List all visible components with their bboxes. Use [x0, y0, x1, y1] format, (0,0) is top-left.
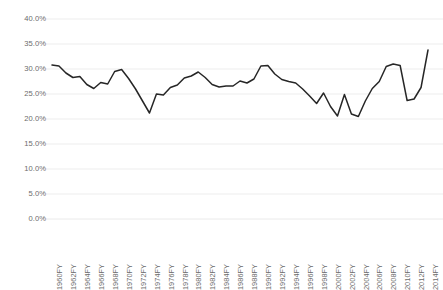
x-axis-tick-label: 1970FY: [125, 264, 134, 290]
x-axis-tick-label: 1990FY: [264, 264, 273, 290]
x-axis: 1960FY1962FY1964FY1966FY1968FY1970FY1972…: [0, 222, 443, 267]
y-axis-tick-label: 20.0%: [2, 114, 46, 123]
y-axis-tick-label: 40.0%: [2, 14, 46, 23]
x-axis-tick-label: 1964FY: [83, 264, 92, 290]
x-axis-tick-label: 1994FY: [292, 264, 301, 290]
x-axis-tick-label: 1976FY: [167, 264, 176, 290]
x-axis-tick-label: 1984FY: [222, 264, 231, 290]
gridlines: [46, 19, 443, 219]
y-axis-tick-label: 25.0%: [2, 89, 46, 98]
x-axis-tick-label: 2008FY: [389, 264, 398, 290]
y-axis-tick-label: 10.0%: [2, 164, 46, 173]
x-axis-tick-label: 2002FY: [348, 264, 357, 290]
y-axis-tick-label: 30.0%: [2, 64, 46, 73]
x-axis-tick-label: 1966FY: [97, 264, 106, 290]
x-axis-tick-label: 1992FY: [278, 264, 287, 290]
x-axis-tick-label: 2014FY: [431, 264, 440, 290]
x-axis-tick-label: 2010FY: [403, 264, 412, 290]
x-axis-tick-label: 1982FY: [208, 264, 217, 290]
x-axis-tick-label: 2000FY: [334, 264, 343, 290]
x-axis-tick-label: 1978FY: [181, 264, 190, 290]
y-axis-tick-label: 35.0%: [2, 39, 46, 48]
x-axis-tick-label: 1996FY: [306, 264, 315, 290]
x-axis-tick-label: 2006FY: [375, 264, 384, 290]
x-axis-tick-label: 1986FY: [236, 264, 245, 290]
y-axis-tick-label: 15.0%: [2, 139, 46, 148]
x-axis-tick-label: 1960FY: [55, 264, 64, 290]
x-axis-tick-label: 2012FY: [417, 264, 426, 290]
y-axis-tick-label: 5.0%: [2, 189, 46, 198]
x-axis-tick-label: 1988FY: [250, 264, 259, 290]
x-axis-tick-label: 1962FY: [69, 264, 78, 290]
y-axis: 0.0%5.0%10.0%15.0%20.0%25.0%30.0%35.0%40…: [0, 0, 46, 230]
x-axis-tick-label: 1972FY: [139, 264, 148, 290]
x-axis-tick-label: 1974FY: [153, 264, 162, 290]
x-axis-tick-label: 1968FY: [111, 264, 120, 290]
data-series-line: [52, 50, 428, 117]
x-axis-tick-label: 2004FY: [362, 264, 371, 290]
x-axis-tick-label: 1980FY: [194, 264, 203, 290]
x-axis-tick-label: 1998FY: [320, 264, 329, 290]
